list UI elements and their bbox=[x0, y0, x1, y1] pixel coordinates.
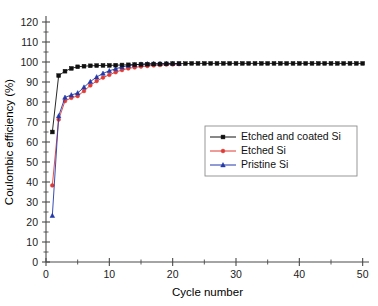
datapoint-etched-si-9 bbox=[101, 76, 105, 80]
datapoint-etched-and-coated-si-17 bbox=[152, 62, 156, 66]
x-tick-label-30: 30 bbox=[230, 268, 242, 280]
datapoint-etched-and-coated-si-27 bbox=[215, 62, 219, 66]
series-line-pristine-si bbox=[52, 63, 179, 215]
datapoint-etched-and-coated-si-37 bbox=[278, 62, 282, 66]
datapoint-etched-and-coated-si-50 bbox=[361, 62, 365, 66]
series-line-etched-and-coated-si bbox=[52, 63, 362, 132]
y-tick-label-100: 100 bbox=[20, 56, 38, 68]
datapoint-etched-and-coated-si-18 bbox=[158, 62, 162, 66]
datapoint-etched-and-coated-si-42 bbox=[310, 62, 314, 66]
datapoint-etched-and-coated-si-11 bbox=[114, 63, 118, 67]
datapoint-etched-and-coated-si-2 bbox=[57, 74, 61, 78]
y-axis-title: Coulombic efficiency (%) bbox=[3, 79, 15, 206]
datapoint-pristine-si-8 bbox=[94, 75, 99, 79]
legend-label-pristine-si: Pristine Si bbox=[241, 158, 288, 170]
datapoint-etched-and-coated-si-35 bbox=[266, 62, 270, 66]
x-tick-label-40: 40 bbox=[293, 268, 305, 280]
datapoint-etched-and-coated-si-36 bbox=[272, 62, 276, 66]
y-tick-label-110: 110 bbox=[21, 36, 38, 48]
y-tick-label-50: 50 bbox=[26, 156, 38, 168]
datapoint-etched-and-coated-si-22 bbox=[183, 62, 187, 66]
x-tick-label-20: 20 bbox=[167, 268, 179, 280]
x-tick-label-10: 10 bbox=[103, 268, 115, 280]
legend-label-etched-si: Etched Si bbox=[241, 144, 286, 156]
x-axis-title: Cycle number bbox=[172, 286, 243, 298]
y-tick-label-0: 0 bbox=[32, 256, 38, 268]
datapoint-etched-and-coated-si-49 bbox=[354, 62, 358, 66]
datapoint-etched-and-coated-si-3 bbox=[63, 69, 67, 73]
datapoint-etched-and-coated-si-30 bbox=[234, 62, 238, 66]
chart-figure: 010203040506070809010011012001020304050C… bbox=[0, 0, 378, 306]
legend-marker-etched-and-coated-si bbox=[221, 135, 225, 139]
datapoint-etched-si-1 bbox=[50, 184, 54, 188]
datapoint-etched-and-coated-si-28 bbox=[221, 62, 225, 66]
datapoint-etched-and-coated-si-6 bbox=[82, 64, 86, 68]
y-tick-label-60: 60 bbox=[26, 136, 38, 148]
datapoint-etched-and-coated-si-7 bbox=[88, 64, 92, 68]
datapoint-etched-and-coated-si-5 bbox=[76, 65, 80, 69]
datapoint-etched-si-10 bbox=[107, 73, 111, 77]
y-tick-label-30: 30 bbox=[26, 196, 38, 208]
datapoint-pristine-si-7 bbox=[88, 79, 93, 83]
datapoint-pristine-si-1 bbox=[50, 213, 55, 217]
y-tick-label-80: 80 bbox=[26, 96, 38, 108]
datapoint-etched-si-8 bbox=[95, 79, 99, 83]
datapoint-etched-and-coated-si-12 bbox=[120, 63, 124, 67]
datapoint-etched-and-coated-si-1 bbox=[50, 130, 54, 134]
datapoint-etched-and-coated-si-13 bbox=[126, 63, 130, 67]
datapoint-etched-and-coated-si-21 bbox=[177, 62, 181, 66]
datapoint-etched-si-7 bbox=[88, 84, 92, 88]
datapoint-etched-and-coated-si-47 bbox=[342, 62, 346, 66]
datapoint-etched-and-coated-si-31 bbox=[240, 62, 244, 66]
datapoint-etched-and-coated-si-20 bbox=[171, 62, 175, 66]
datapoint-etched-and-coated-si-8 bbox=[95, 64, 99, 68]
y-tick-label-90: 90 bbox=[26, 76, 38, 88]
y-tick-label-40: 40 bbox=[26, 176, 38, 188]
datapoint-etched-and-coated-si-33 bbox=[253, 62, 257, 66]
legend-marker-etched-si bbox=[221, 149, 225, 153]
datapoint-etched-and-coated-si-32 bbox=[247, 62, 251, 66]
datapoint-etched-and-coated-si-19 bbox=[164, 62, 168, 66]
datapoint-etched-and-coated-si-48 bbox=[348, 62, 352, 66]
datapoint-etched-si-6 bbox=[82, 89, 86, 93]
x-tick-label-0: 0 bbox=[43, 268, 49, 280]
y-tick-label-120: 120 bbox=[20, 16, 38, 28]
datapoint-etched-and-coated-si-15 bbox=[139, 63, 143, 67]
x-tick-label-50: 50 bbox=[357, 268, 369, 280]
datapoint-etched-and-coated-si-39 bbox=[291, 62, 295, 66]
legend-label-etched-and-coated-si: Etched and coated Si bbox=[241, 130, 341, 142]
datapoint-etched-and-coated-si-25 bbox=[202, 62, 206, 66]
datapoint-etched-and-coated-si-10 bbox=[107, 64, 111, 68]
coulombic-efficiency-line-chart: 010203040506070809010011012001020304050C… bbox=[0, 0, 378, 306]
datapoint-etched-and-coated-si-9 bbox=[101, 64, 105, 68]
datapoint-etched-and-coated-si-38 bbox=[285, 62, 289, 66]
datapoint-etched-and-coated-si-41 bbox=[304, 62, 308, 66]
y-tick-label-10: 10 bbox=[26, 236, 38, 248]
series-line-etched-si bbox=[52, 64, 179, 185]
datapoint-etched-and-coated-si-34 bbox=[259, 62, 263, 66]
datapoint-etched-and-coated-si-29 bbox=[228, 62, 232, 66]
y-tick-label-70: 70 bbox=[26, 116, 38, 128]
datapoint-etched-and-coated-si-23 bbox=[190, 62, 194, 66]
datapoint-etched-and-coated-si-16 bbox=[145, 62, 149, 66]
datapoint-etched-and-coated-si-24 bbox=[196, 62, 200, 66]
datapoint-etched-and-coated-si-40 bbox=[297, 62, 301, 66]
datapoint-etched-and-coated-si-44 bbox=[323, 62, 327, 66]
datapoint-etched-and-coated-si-26 bbox=[209, 62, 213, 66]
datapoint-etched-and-coated-si-14 bbox=[133, 63, 137, 67]
datapoint-etched-and-coated-si-4 bbox=[69, 67, 73, 71]
datapoint-etched-and-coated-si-45 bbox=[329, 62, 333, 66]
datapoint-etched-and-coated-si-43 bbox=[316, 62, 320, 66]
datapoint-etched-and-coated-si-46 bbox=[335, 62, 339, 66]
y-tick-label-20: 20 bbox=[26, 216, 38, 228]
